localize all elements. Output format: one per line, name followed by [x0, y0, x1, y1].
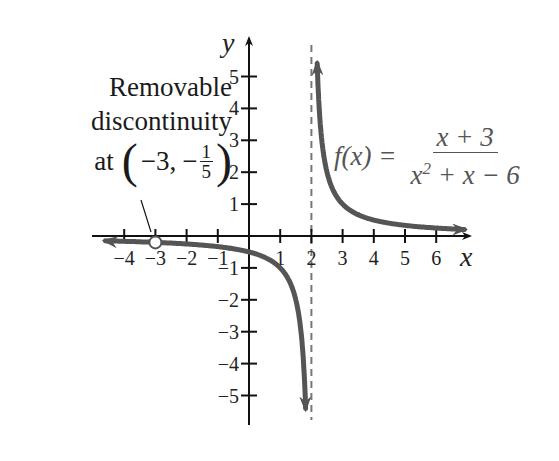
- y-tick-label: 1: [229, 193, 239, 215]
- right-branch-curve: [358, 215, 464, 230]
- removable-discontinuity-hole: [149, 236, 161, 248]
- y-tick-label: −5: [218, 385, 239, 407]
- x-tick-label: −4: [114, 247, 135, 269]
- annotation-point-x: −3,: [141, 144, 176, 178]
- x-axis-label: x: [459, 241, 473, 272]
- function-formula: f(x) = x + 3 x2 + x − 6: [334, 122, 524, 191]
- annotation-line-2: discontinuity: [20, 104, 232, 138]
- y-tick-label: −3: [218, 321, 239, 343]
- x-tick-label: 5: [400, 247, 410, 269]
- y-tick-label: −1: [218, 257, 239, 279]
- x-tick-label: 4: [369, 247, 379, 269]
- annotation-leader-line: [141, 200, 151, 232]
- x-tick-label: 3: [338, 247, 348, 269]
- y-tick-label: −2: [218, 289, 239, 311]
- annotation-line-1: Removable: [20, 70, 232, 104]
- annotation-at: at: [94, 144, 114, 178]
- x-tick-label: −3: [145, 247, 166, 269]
- y-axis-label: y: [219, 27, 235, 58]
- formula-lhs: f(x) =: [334, 141, 396, 172]
- x-tick-label: 2: [306, 247, 316, 269]
- x-tick-label: −2: [176, 247, 197, 269]
- annotation-frac-den: 5: [202, 162, 212, 181]
- left-branch-curve-lower: [230, 248, 305, 408]
- formula-numerator: x + 3: [433, 122, 498, 153]
- removable-discontinuity-annotation: Removable discontinuity at ( −3, − 1 5 ): [20, 70, 232, 184]
- annotation-frac-num: 1: [200, 142, 214, 162]
- y-tick-label: −4: [218, 353, 239, 375]
- formula-denominator: x2 + x − 6: [406, 153, 523, 191]
- x-tick-label: 6: [431, 247, 441, 269]
